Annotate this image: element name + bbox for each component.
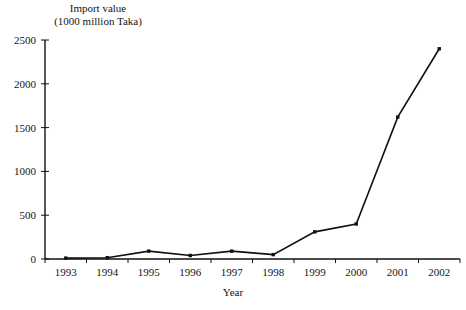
x-axis-tick-label: 1994 [96, 266, 119, 278]
data-point-marker [438, 47, 441, 50]
data-point-marker [106, 256, 109, 259]
x-axis: 1993199419951996199719981999200020012002 [45, 259, 460, 278]
plot-area: 05001000150020002500 1993199419951996199… [0, 0, 466, 310]
x-axis-tick-label: 2000 [345, 266, 368, 278]
line-chart: Import value (1000 million Taka) 0500100… [0, 0, 466, 310]
y-axis-tick-label: 1000 [14, 165, 37, 177]
x-axis-title: Year [0, 286, 466, 298]
x-axis-tick-label: 1995 [138, 266, 161, 278]
y-axis-tick-label: 1500 [14, 122, 37, 134]
data-point-marker [230, 249, 233, 252]
data-point-marker [313, 230, 316, 233]
data-point-marker [64, 256, 67, 259]
x-axis-tick-label: 2002 [428, 266, 450, 278]
y-axis: 05001000150020002500 [14, 34, 49, 265]
data-point-marker [396, 115, 399, 118]
y-axis-tick-label: 2000 [14, 78, 37, 90]
data-point-marker [272, 253, 275, 256]
x-axis-tick-label: 2001 [387, 266, 409, 278]
x-axis-tick-label: 1993 [55, 266, 78, 278]
x-axis-tick-label: 1996 [179, 266, 202, 278]
data-point-marker [189, 254, 192, 257]
y-axis-tick-label: 0 [31, 253, 37, 265]
x-axis-tick-label: 1999 [304, 266, 327, 278]
x-axis-tick-label: 1998 [262, 266, 285, 278]
series-line [66, 49, 440, 258]
y-axis-tick-label: 2500 [14, 34, 37, 46]
data-series [64, 47, 441, 260]
data-point-marker [355, 222, 358, 225]
x-axis-tick-label: 1997 [221, 266, 244, 278]
data-point-marker [147, 249, 150, 252]
y-axis-tick-label: 500 [20, 209, 37, 221]
